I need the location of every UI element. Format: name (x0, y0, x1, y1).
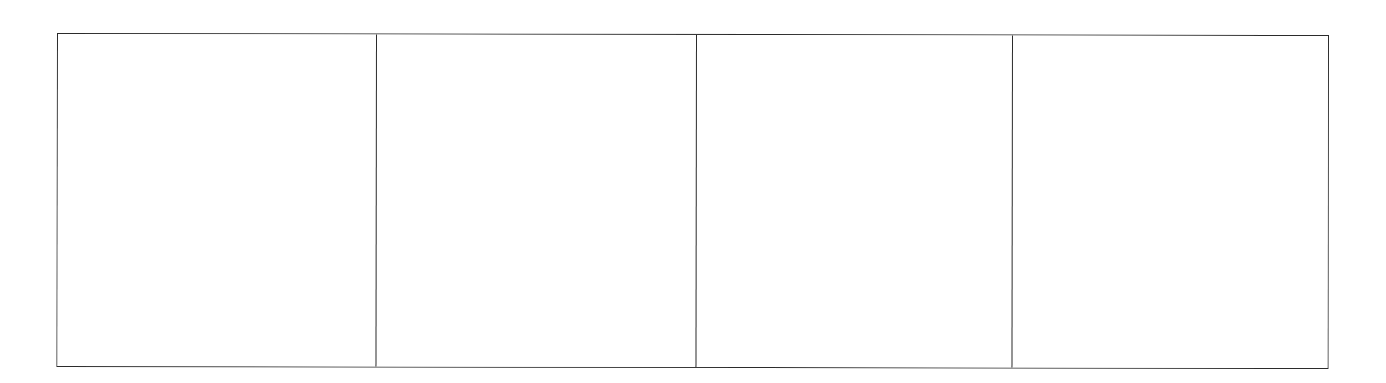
four-panel-frame (56, 33, 1329, 369)
panel-2 (375, 35, 696, 368)
panel-1 (57, 34, 376, 366)
panel-4 (1011, 36, 1328, 368)
panel-3 (695, 35, 1012, 367)
